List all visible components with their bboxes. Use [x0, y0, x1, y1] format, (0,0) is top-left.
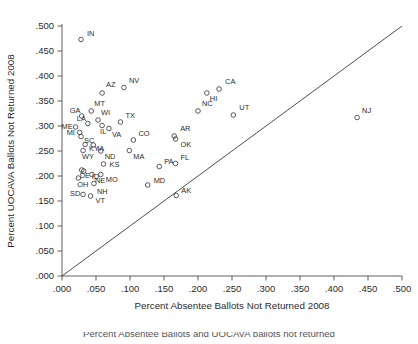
data-point-VA[interactable] — [107, 126, 112, 131]
x-tick-label: .050 — [87, 283, 106, 294]
x-tick-label: .250 — [223, 283, 242, 294]
data-point-label-WI: WI — [101, 108, 110, 117]
data-point-PA[interactable] — [157, 164, 162, 169]
data-point-label-TX: TX — [125, 111, 135, 120]
data-point-WI[interactable] — [96, 118, 101, 123]
data-point-label-MI: MI — [67, 128, 75, 137]
x-tick-label: .150 — [155, 283, 174, 294]
data-point-label-OK: OK — [181, 140, 192, 149]
y-tick-label: .300 — [36, 120, 55, 131]
data-point-label-KS: KS — [109, 160, 119, 169]
data-point-label-CO: CO — [138, 129, 149, 138]
data-point-label-NH: NH — [97, 187, 108, 196]
scatter-plot-canvas: .000.050.100.150.200.250.300.350.400.450… — [0, 0, 418, 344]
data-point-label-LA: LA — [77, 114, 86, 123]
data-point-MD[interactable] — [145, 183, 150, 188]
y-tick-label: .150 — [36, 195, 55, 206]
data-point-VT[interactable] — [88, 194, 93, 199]
data-point-label-MT: MT — [94, 99, 105, 108]
y-tick-label: .100 — [36, 220, 55, 231]
y-tick-label: .000 — [36, 270, 55, 281]
data-point-label-NC: NC — [202, 99, 213, 108]
x-tick-label: .500 — [393, 283, 412, 294]
y-tick-label: .450 — [36, 45, 55, 56]
data-point-label-VA: VA — [112, 130, 121, 139]
data-point-TX[interactable] — [118, 120, 123, 125]
data-point-NC[interactable] — [196, 109, 201, 114]
y-tick-label: .250 — [36, 145, 55, 156]
data-point-NJ[interactable] — [355, 115, 360, 120]
data-point-HI[interactable] — [205, 91, 210, 96]
data-point-label-DE: DE — [80, 171, 90, 180]
data-point-LA[interactable] — [86, 121, 91, 126]
data-point-IN[interactable] — [79, 37, 84, 42]
x-tick-label: .000 — [53, 283, 72, 294]
y-tick-label: .350 — [36, 95, 55, 106]
data-point-label-WY: WY — [82, 152, 94, 161]
data-point-label-FL: FL — [181, 153, 190, 162]
data-point-label-MO: MO — [106, 175, 118, 184]
data-point-KS[interactable] — [101, 162, 106, 167]
data-point-label-NJ: NJ — [362, 106, 371, 115]
x-tick-label: .200 — [189, 283, 208, 294]
x-tick-label: .400 — [325, 283, 344, 294]
data-point-label-PA: PA — [164, 157, 173, 166]
data-point-SC[interactable] — [79, 134, 84, 139]
y-tick-label: .200 — [36, 170, 55, 181]
data-point-label-NV: NV — [129, 76, 139, 85]
data-point-label-MA: MA — [133, 152, 144, 161]
identity-reference-line — [62, 26, 402, 276]
data-point-FL[interactable] — [173, 161, 178, 166]
data-point-label-IL: IL — [100, 127, 106, 136]
data-point-label-AK: AK — [181, 186, 191, 195]
y-tick-label: .400 — [36, 70, 55, 81]
data-point-AK[interactable] — [174, 193, 179, 198]
x-tick-label: .450 — [359, 283, 378, 294]
data-point-label-CA: CA — [225, 77, 235, 86]
data-point-CA[interactable] — [217, 87, 222, 92]
data-point-label-UT: UT — [239, 103, 249, 112]
y-tick-label: .050 — [36, 245, 55, 256]
y-tick-label: .500 — [36, 20, 55, 31]
data-point-label-AZ: AZ — [106, 80, 116, 89]
data-point-CO[interactable] — [131, 138, 136, 143]
data-point-label-IN: IN — [87, 29, 94, 38]
data-point-label-AR: AR — [180, 124, 190, 133]
data-point-label-MD: MD — [154, 176, 166, 185]
data-point-label-VT: VT — [96, 196, 106, 205]
x-axis-title: Percent Absentee Ballots Not Returned 20… — [135, 300, 331, 311]
y-axis-title: Percent UOCAVA Ballots Not Returned 2008 — [5, 54, 16, 248]
data-point-MT[interactable] — [89, 109, 94, 114]
data-point-AZ[interactable] — [100, 91, 105, 96]
data-point-label-SD: SD — [70, 189, 80, 198]
figure-caption: Percent Absentee Ballots and UOCAVA ball… — [0, 332, 418, 339]
data-point-UT[interactable] — [231, 113, 236, 118]
figure-caption-strip: Percent Absentee Ballots and UOCAVA ball… — [0, 332, 418, 344]
data-point-SD[interactable] — [81, 192, 86, 197]
x-tick-label: .300 — [257, 283, 276, 294]
x-tick-label: .350 — [291, 283, 310, 294]
data-point-NV[interactable] — [122, 85, 127, 90]
scatter-plot-figure: .000.050.100.150.200.250.300.350.400.450… — [0, 0, 418, 344]
x-tick-label: .100 — [121, 283, 140, 294]
data-point-MA[interactable] — [127, 148, 132, 153]
